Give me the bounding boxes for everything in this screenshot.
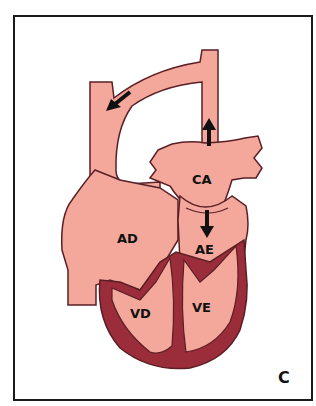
label-right-ventricle: VD [130,306,151,321]
label-left-ventricle: VE [192,300,211,315]
heart-diagram: CA AD AE VD VE C [0,0,316,406]
label-right-atrium: AD [117,231,138,246]
label-common-atrium: AE [195,242,214,257]
panel-letter: C [278,368,290,387]
label-left-atrium: CA [192,172,212,187]
